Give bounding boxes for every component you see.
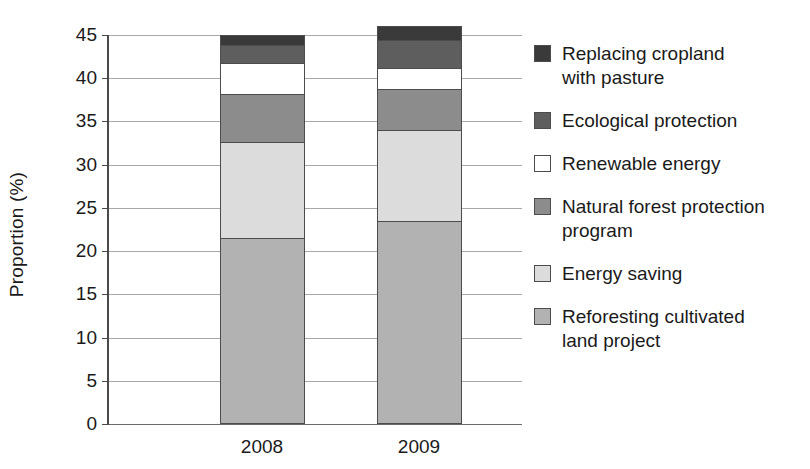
bar-segment[interactable]: [377, 40, 462, 68]
legend-item-label: Renewable energy: [562, 152, 720, 176]
bar-segment[interactable]: [220, 238, 305, 424]
y-axis-tick-label: 0: [57, 413, 97, 435]
legend-item-label: Ecological protection: [562, 109, 737, 133]
legend-item-label: Replacing cropland with pasture: [562, 42, 725, 90]
y-axis-tick: [102, 424, 109, 425]
bar-segment[interactable]: [377, 221, 462, 424]
y-axis-tick-label: 10: [57, 327, 97, 349]
bar-segment[interactable]: [220, 35, 305, 45]
legend-item[interactable]: Reforesting cultivated land project: [534, 305, 806, 353]
legend-item-label: Energy saving: [562, 262, 682, 286]
legend-item[interactable]: Energy saving: [534, 262, 806, 286]
y-axis-tick: [102, 78, 109, 79]
legend-color-swatch: [534, 198, 551, 215]
bar-segment[interactable]: [377, 68, 462, 89]
bar-segment[interactable]: [220, 63, 305, 94]
y-axis-tick: [102, 251, 109, 252]
x-axis-tick-label: 2008: [202, 436, 322, 458]
y-axis-tick: [102, 381, 109, 382]
y-axis-tick-label: 20: [57, 240, 97, 262]
y-axis-tick-label: 5: [57, 370, 97, 392]
y-axis-tick: [102, 294, 109, 295]
legend-color-swatch: [534, 112, 551, 129]
legend-color-swatch: [534, 265, 551, 282]
legend: Replacing cropland with pastureEcologica…: [534, 42, 806, 353]
y-axis-tick-label: 30: [57, 154, 97, 176]
bar-segment[interactable]: [220, 45, 305, 62]
y-axis-tick-label: 40: [57, 67, 97, 89]
stacked-bar-2009[interactable]: [377, 26, 462, 424]
legend-color-swatch: [534, 45, 551, 62]
bar-segment[interactable]: [220, 94, 305, 142]
bar-segment[interactable]: [220, 142, 305, 238]
bar-segment[interactable]: [377, 89, 462, 130]
legend-item[interactable]: Natural forest protection program: [534, 195, 806, 243]
legend-item-label: Natural forest protection program: [562, 195, 765, 243]
y-axis-tick: [102, 208, 109, 209]
y-axis-tick-label: 15: [57, 283, 97, 305]
y-axis-tick-label: 35: [57, 110, 97, 132]
y-axis-tick-label: 45: [57, 24, 97, 46]
bar-segment[interactable]: [377, 130, 462, 221]
legend-item[interactable]: Renewable energy: [534, 152, 806, 176]
y-axis-tick-label: 25: [57, 197, 97, 219]
legend-item[interactable]: Ecological protection: [534, 109, 806, 133]
plot-area: 454035302520151050 20082009: [107, 35, 522, 425]
x-axis-tick-label: 2009: [359, 436, 479, 458]
bar-segment[interactable]: [377, 26, 462, 40]
y-axis-tick: [102, 35, 109, 36]
legend-color-swatch: [534, 155, 551, 172]
legend-item[interactable]: Replacing cropland with pasture: [534, 42, 806, 90]
y-axis-tick: [102, 338, 109, 339]
y-axis-tick: [102, 121, 109, 122]
y-axis-tick: [102, 165, 109, 166]
stacked-bar-chart-figure: Proportion (%) 454035302520151050 200820…: [0, 0, 810, 469]
y-axis-title: Proportion (%): [0, 0, 34, 469]
legend-item-label: Reforesting cultivated land project: [562, 305, 745, 353]
stacked-bar-2008[interactable]: [220, 35, 305, 424]
legend-color-swatch: [534, 308, 551, 325]
